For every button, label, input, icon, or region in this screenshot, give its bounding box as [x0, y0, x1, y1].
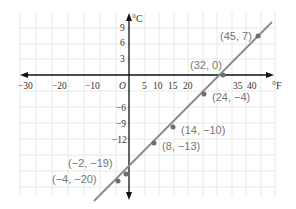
- y-unit-label: °C: [132, 13, 143, 24]
- y-tick: −9: [116, 119, 126, 129]
- point-label: (−2, −19): [68, 157, 113, 169]
- y-tick: 6: [120, 38, 125, 48]
- x-tick: 10: [153, 81, 163, 91]
- x-axis-right-arrow-icon: [266, 72, 274, 78]
- point-32-0: [221, 73, 226, 78]
- point-label: (24, −4): [212, 91, 250, 103]
- y-tick-labels: °C 9 6 3 −6 −9 −12: [112, 13, 143, 145]
- point-labels: (45, 7) (32, 0) (24, −4) (14, −10) (8, −…: [52, 30, 252, 185]
- x-axis: [20, 72, 274, 78]
- point-45-7: [256, 34, 261, 39]
- y-tick: 9: [120, 23, 125, 33]
- x-tick: 40: [247, 81, 257, 91]
- y-tick: −12: [112, 135, 127, 145]
- point-label: (14, −10): [181, 124, 225, 136]
- y-tick: −6: [116, 103, 126, 113]
- origin-label: O: [119, 81, 126, 91]
- point-label: (−4, −20): [52, 173, 97, 185]
- x-tick: 35: [233, 81, 243, 91]
- x-tick: −10: [85, 81, 100, 91]
- point-label: (32, 0): [190, 59, 222, 71]
- x-tick: 15: [168, 81, 178, 91]
- point-8-neg13: [152, 141, 157, 146]
- y-axis-down-arrow-icon: [126, 192, 132, 200]
- point-label: (8, −13): [162, 140, 200, 152]
- point-24-neg4: [202, 92, 207, 97]
- temperature-conversion-chart: −30 −20 −10 5 10 15 20 35 40 °F O °C 9 6…: [0, 0, 296, 209]
- y-tick: 3: [120, 54, 125, 64]
- x-tick: −30: [18, 81, 33, 91]
- x-axis-left-arrow-icon: [20, 72, 28, 78]
- x-tick: −20: [52, 81, 67, 91]
- x-tick-labels: −30 −20 −10 5 10 15 20 35 40 °F O: [18, 80, 282, 91]
- point-label: (45, 7): [220, 30, 252, 42]
- x-tick: 20: [183, 81, 193, 91]
- point-14-neg10: [171, 125, 176, 130]
- x-tick: 5: [142, 81, 147, 91]
- x-unit-label: °F: [272, 80, 282, 91]
- point-neg2-neg19: [124, 172, 129, 177]
- point-neg4-neg20: [116, 179, 121, 184]
